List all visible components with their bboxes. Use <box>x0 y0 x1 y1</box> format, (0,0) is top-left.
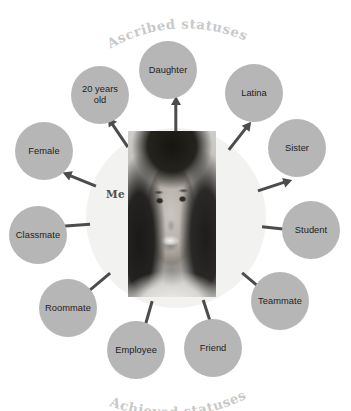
status-bubble-roommate[interactable]: Roommate <box>39 279 97 337</box>
center-portrait <box>128 131 216 297</box>
status-bubble-label: 20 years old <box>82 84 118 106</box>
status-bubble-student[interactable]: Student <box>282 201 340 259</box>
status-bubble-friend[interactable]: Friend <box>184 319 242 377</box>
status-bubble-classmate[interactable]: Classmate <box>9 206 67 264</box>
arrow-shaft <box>228 127 248 151</box>
status-bubble-label: Daughter <box>149 65 188 76</box>
status-bubble-sister[interactable]: Sister <box>268 119 326 177</box>
arrow-shaft <box>62 222 90 227</box>
achieved-statuses-title: Achieved statuses <box>0 371 351 411</box>
status-bubble-label: Female <box>28 146 59 157</box>
portrait-photo-image <box>128 131 216 297</box>
arrow-shaft <box>111 123 129 148</box>
arrow-shaft <box>70 174 97 188</box>
status-bubble-label: Roommate <box>45 303 91 314</box>
status-bubble-label: Employee <box>115 345 157 356</box>
arrow-shaft <box>257 181 285 193</box>
status-bubble-label: Teammate <box>258 296 302 307</box>
status-bubble-label: Student <box>295 225 327 236</box>
status-bubble-latina[interactable]: Latina <box>225 64 283 122</box>
arrow-head <box>282 176 294 188</box>
status-bubble-teammate[interactable]: Teammate <box>251 272 309 330</box>
me-label: Me <box>106 188 125 200</box>
status-bubble-label: Friend <box>200 343 227 354</box>
status-bubble-label: Sister <box>285 143 309 154</box>
status-bubble-female[interactable]: Female <box>15 122 73 180</box>
arrow-to-female <box>61 167 99 192</box>
status-set-diagram: Ascribed statuses Achieved statuses Me D… <box>0 0 351 411</box>
status-bubble-20-years-old[interactable]: 20 years old <box>71 66 129 124</box>
status-bubble-employee[interactable]: Employee <box>107 321 165 379</box>
arrow-to-latina <box>224 118 256 154</box>
status-bubble-daughter[interactable]: Daughter <box>139 41 197 99</box>
arrow-shaft <box>88 272 112 293</box>
status-bubble-label: Classmate <box>16 230 60 241</box>
arrow-to-daughter <box>170 96 182 132</box>
arrow-to-sister <box>256 175 294 198</box>
achieved-statuses-text: Achieved statuses <box>107 387 249 411</box>
status-bubble-label: Latina <box>241 88 267 99</box>
arrow-shaft <box>174 104 177 132</box>
